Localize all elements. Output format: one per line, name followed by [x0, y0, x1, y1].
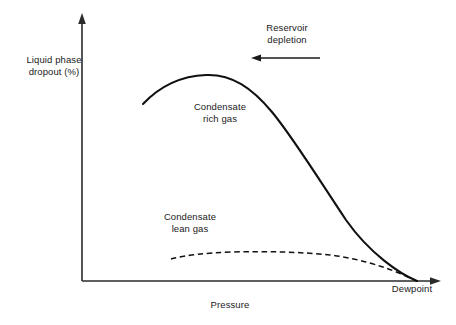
x-axis-label: Pressure [190, 299, 270, 311]
dewpoint-tick-label: Dewpoint [376, 283, 448, 295]
reservoir-depletion-label: Reservoir depletion [232, 22, 342, 46]
y-axis-label: Liquid phase dropout (%) [14, 54, 94, 78]
y-axis-arrowhead-icon [78, 13, 86, 24]
condensate-rich-gas-label: Condensate rich gas [165, 101, 275, 125]
condensate-lean-gas-label: Condensate lean gas [135, 211, 245, 235]
chart-canvas [0, 0, 456, 325]
phase-behaviour-diagram: Liquid phase dropout (%) Pressure Dewpoi… [0, 0, 456, 325]
reservoir-depletion-arrowhead-icon [251, 54, 261, 61]
